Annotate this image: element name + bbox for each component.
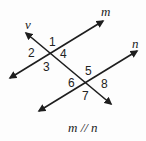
parallel-caption: m // n <box>68 120 98 135</box>
label-v: v <box>25 17 31 32</box>
angle-1: 1 <box>49 35 56 49</box>
angle-2: 2 <box>28 46 35 60</box>
label-n: n <box>132 36 139 51</box>
angle-7: 7 <box>82 89 89 103</box>
diagram-svg: m v n 1 2 3 4 5 6 7 8 m // n <box>0 0 146 141</box>
parallel-lines-diagram: m v n 1 2 3 4 5 6 7 8 m // n <box>0 0 146 141</box>
angle-3: 3 <box>43 60 50 74</box>
angle-5: 5 <box>85 64 92 78</box>
label-m: m <box>101 4 110 19</box>
angle-8: 8 <box>101 77 108 91</box>
angle-6: 6 <box>68 76 75 90</box>
angle-4: 4 <box>60 47 67 61</box>
